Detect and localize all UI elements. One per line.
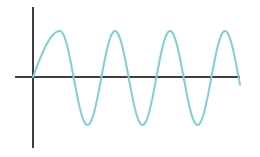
plot-area (0, 0, 260, 157)
sine-wave-diagram (0, 0, 260, 157)
